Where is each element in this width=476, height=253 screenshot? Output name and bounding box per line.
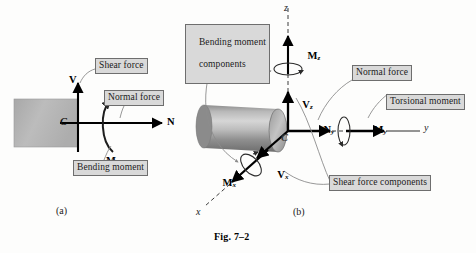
bending-moment-components-line1: Bending moment — [199, 37, 266, 47]
figure-caption: Fig. 7–2 — [214, 231, 250, 242]
bending-moment-x-rotation-arrowhead — [253, 152, 258, 154]
x-axis-label: x — [196, 206, 200, 217]
bending-moment-arc-a — [103, 101, 113, 152]
normal-force-callout-b[interactable]: Normal force — [352, 65, 412, 81]
bending-moment-components-line2: components — [199, 59, 246, 69]
bending-moment-x-symbol: M — [223, 177, 233, 188]
shear-force-x-subscript: x — [285, 173, 289, 181]
shear-force-x-symbol: V — [277, 169, 285, 180]
normal-force-y-subscript: y — [331, 128, 334, 136]
leader-shear-force-components-to-vx — [284, 171, 330, 184]
shear-force-z-label: Vz — [292, 88, 313, 122]
torsional-moment-y-label: My — [363, 113, 387, 147]
shear-force-label-a: V — [69, 74, 77, 85]
torsional-moment-callout-b[interactable]: Torsional moment — [386, 94, 465, 110]
normal-force-label-a: N — [167, 116, 175, 127]
bending-moment-x-label: Mx — [212, 166, 236, 200]
shear-force-x-label: Vx — [267, 158, 288, 192]
bending-moment-z-label: Mz — [297, 39, 320, 73]
bending-moment-components-callout[interactable]: Bending moment components — [185, 24, 270, 84]
shear-force-callout-a[interactable]: Shear force — [95, 58, 148, 74]
bending-moment-z-symbol: M — [308, 50, 318, 61]
panel-a-label: (a) — [56, 205, 67, 216]
z-axis-label: z — [284, 2, 288, 13]
cylinder-body — [204, 105, 278, 152]
bending-moment-callout-a[interactable]: Bending moment — [73, 160, 148, 176]
shear-force-z-symbol: V — [302, 99, 310, 110]
bending-moment-z-subscript: z — [317, 54, 320, 62]
leader-normal-force-a — [120, 106, 124, 118]
bending-moment-x-subscript: x — [232, 181, 236, 189]
section-point-c-a: C — [60, 116, 67, 127]
normal-force-y-label: Ny — [313, 113, 334, 147]
figure-page: V N M C Shear force Normal force Bending… — [0, 0, 476, 253]
torsional-moment-y-subscript: y — [383, 128, 386, 136]
y-axis-label: y — [424, 122, 428, 133]
shear-force-components-callout[interactable]: Shear force components — [329, 175, 431, 191]
panel-b-label: (b) — [293, 206, 305, 217]
normal-force-callout-a[interactable]: Normal force — [104, 90, 164, 106]
panel-a-graphics — [14, 69, 162, 160]
shear-force-z-subscript: z — [310, 103, 313, 111]
torsional-moment-y-symbol: M — [374, 124, 384, 135]
normal-force-y-symbol: N — [324, 124, 332, 135]
section-point-c-b: C — [281, 132, 288, 143]
leader-shear-force-a — [80, 69, 95, 83]
